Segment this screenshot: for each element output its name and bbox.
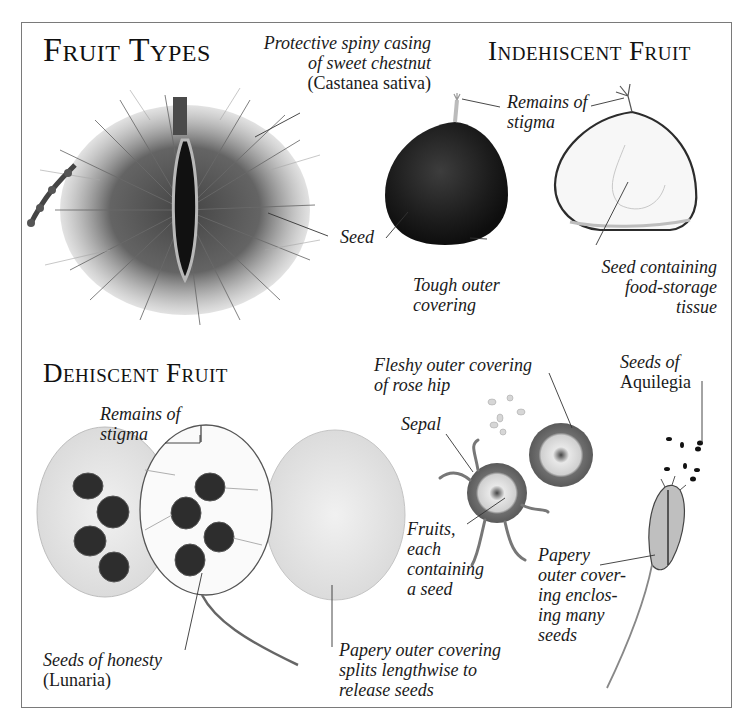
label-line: stigma: [100, 424, 181, 444]
label-chestnut-casing: Protective spiny casing of sweet chestnu…: [250, 33, 431, 93]
label-line: Seeds of honesty: [43, 650, 162, 670]
scientific-name: Aquilegia: [620, 372, 691, 392]
label-line: Seeds of: [620, 352, 691, 372]
label-honesty-seeds: Seeds of honesty (Lunaria): [43, 650, 162, 690]
label-line: Fleshy outer covering: [374, 355, 532, 375]
label-line: Sepal: [401, 414, 441, 434]
label-line: of sweet chestnut: [250, 53, 431, 73]
label-line: Seed: [340, 227, 374, 247]
label-stigma-indehiscent: Remains of stigma: [507, 92, 588, 132]
label-line: Remains of: [100, 404, 181, 424]
label-chestnut-seed: Seed: [340, 227, 374, 247]
label-line: Seed containing: [560, 257, 717, 277]
section-heading-indehiscent: Indehiscent Fruit: [488, 38, 691, 65]
label-line: Protective spiny casing: [250, 33, 431, 53]
label-line: outer cover-: [538, 565, 626, 585]
chestnut-whole: [385, 93, 508, 245]
label-line: seeds: [538, 625, 626, 645]
label-line: Remains of: [507, 92, 588, 112]
label-line: each: [407, 539, 484, 559]
label-stigma-dehiscent: Remains of stigma: [100, 404, 181, 444]
section-heading-dehiscent: Dehiscent Fruit: [43, 360, 228, 387]
label-line: Papery: [538, 545, 626, 565]
label-sepal: Sepal: [401, 414, 441, 434]
label-line: ing enclos-: [538, 585, 626, 605]
label-tough-covering: Tough outer covering: [413, 275, 500, 315]
label-line: of rose hip: [374, 375, 532, 395]
label-line: Tough outer: [413, 275, 500, 295]
page-title: Fruit Types: [43, 33, 211, 67]
label-aquilegia-seeds: Seeds of Aquilegia: [620, 352, 691, 392]
label-line: ing many: [538, 605, 626, 625]
label-line: covering: [413, 295, 500, 315]
label-papery-splits: Papery outer covering splits lengthwise …: [339, 640, 501, 700]
label-papery-enclosing: Papery outer cover- ing enclos- ing many…: [538, 545, 626, 645]
scientific-name: (Lunaria): [43, 670, 162, 690]
label-line: tissue: [560, 297, 717, 317]
label-seed-food-storage: Seed containing food-storage tissue: [560, 257, 717, 317]
sweet-chestnut-spiny-casing: [27, 88, 320, 325]
label-line: Fruits,: [407, 519, 484, 539]
scientific-name: (Castanea sativa): [250, 73, 431, 93]
label-line: stigma: [507, 112, 588, 132]
label-fruits-seed: Fruits, each containing a seed: [407, 519, 484, 599]
label-line: a seed: [407, 579, 484, 599]
label-line: release seeds: [339, 680, 501, 700]
label-line: food-storage: [560, 277, 717, 297]
honesty-seed-pods: [37, 425, 405, 665]
label-line: containing: [407, 559, 484, 579]
label-line: Papery outer covering: [339, 640, 501, 660]
label-rose-hip: Fleshy outer covering of rose hip: [374, 355, 532, 395]
label-line: splits lengthwise to: [339, 660, 501, 680]
